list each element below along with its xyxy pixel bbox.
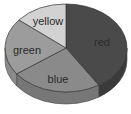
slice-label-yellow: yellow	[33, 15, 64, 27]
slice-label-green: green	[13, 44, 41, 56]
pie-chart: red blue green yellow	[0, 0, 131, 114]
slice-label-red: red	[94, 36, 110, 48]
slice-label-blue: blue	[48, 73, 69, 85]
